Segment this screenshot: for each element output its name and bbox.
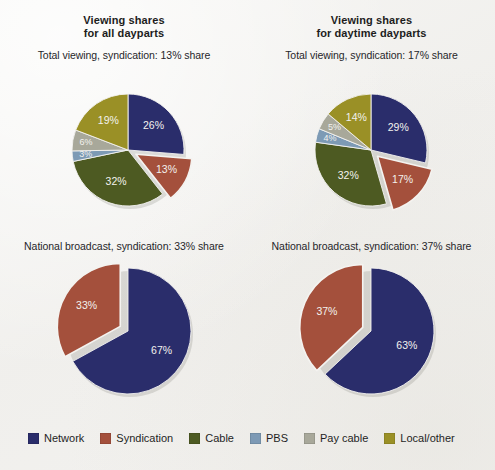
pie-slice-label: 33% — [76, 299, 97, 311]
pie-slice-label: 5% — [328, 122, 341, 132]
pie-chart-daytime-dayparts[interactable]: 29%17%32%4%5%14% — [248, 62, 495, 220]
pie-slice-label: 19% — [98, 114, 119, 126]
panel-daytime-dayparts: Viewing shares for daytime dayparts Tota… — [248, 0, 495, 230]
legend-item-pbs[interactable]: PBS — [250, 432, 288, 444]
legend-item-label: Syndication — [116, 432, 173, 444]
viewing-shares-figure: Viewing shares for all dayparts Total vi… — [0, 0, 495, 470]
legend-item-label: Network — [44, 432, 84, 444]
legend-swatch-icon — [189, 433, 200, 444]
panel-title-daytime-dayparts: Viewing shares for daytime dayparts — [248, 0, 495, 40]
panel-subtitle-all-dayparts: Total viewing, syndication: 13% share — [0, 40, 248, 62]
pie-chart-all-dayparts[interactable]: 26%13%32%3%6%19% — [0, 62, 248, 220]
pie-slice-label: 4% — [323, 133, 336, 143]
pie-svg: 67%33% — [0, 253, 248, 408]
panel-subtitle-national-broadcast-daytime: National broadcast, syndication: 37% sha… — [248, 230, 495, 253]
pie-chart-national-broadcast-daytime[interactable]: 63%37% — [248, 253, 495, 408]
pie-slice-label: 37% — [316, 305, 337, 317]
pie-chart-national-broadcast-all[interactable]: 67%33% — [0, 253, 248, 408]
legend-swatch-icon — [28, 433, 39, 444]
legend-item-label: Cable — [205, 432, 234, 444]
chart-legend: NetworkSyndicationCablePBSPay cableLocal… — [0, 432, 495, 444]
pie-svg: 26%13%32%3%6%19% — [0, 62, 248, 220]
legend-item-pay-cable[interactable]: Pay cable — [304, 432, 368, 444]
pie-svg: 29%17%32%4%5%14% — [248, 62, 495, 220]
pie-slice-label: 6% — [80, 137, 93, 147]
panel-subtitle-national-broadcast-all: National broadcast, syndication: 33% sha… — [0, 230, 248, 253]
pie-slice-label: 14% — [346, 111, 367, 123]
pie-slice-label: 63% — [396, 339, 417, 351]
legend-item-local-other[interactable]: Local/other — [384, 432, 454, 444]
legend-swatch-icon — [100, 433, 111, 444]
legend-item-label: Local/other — [400, 432, 454, 444]
pie-slice-label: 29% — [388, 121, 409, 133]
pie-slice-label: 17% — [392, 173, 413, 185]
pie-slice-label: 32% — [338, 169, 359, 181]
pie-slice-label: 3% — [79, 149, 92, 159]
legend-item-label: Pay cable — [320, 432, 368, 444]
panel-all-dayparts: Viewing shares for all dayparts Total vi… — [0, 0, 248, 230]
pie-svg: 63%37% — [248, 253, 495, 408]
pie-slice-label: 32% — [106, 175, 127, 187]
legend-item-syndication[interactable]: Syndication — [100, 432, 173, 444]
legend-swatch-icon — [304, 433, 315, 444]
legend-item-label: PBS — [266, 432, 288, 444]
legend-swatch-icon — [250, 433, 261, 444]
pie-slice-label: 26% — [143, 119, 164, 131]
pie-slice-label: 13% — [156, 163, 177, 175]
panel-national-broadcast-daytime: National broadcast, syndication: 37% sha… — [248, 230, 495, 425]
panel-subtitle-daytime-dayparts: Total viewing, syndication: 17% share — [248, 40, 495, 62]
legend-item-network[interactable]: Network — [28, 432, 84, 444]
panel-national-broadcast-all: National broadcast, syndication: 33% sha… — [0, 230, 248, 425]
legend-swatch-icon — [384, 433, 395, 444]
pie-slice-label: 67% — [151, 344, 172, 356]
legend-item-cable[interactable]: Cable — [189, 432, 234, 444]
panel-title-all-dayparts: Viewing shares for all dayparts — [0, 0, 248, 40]
